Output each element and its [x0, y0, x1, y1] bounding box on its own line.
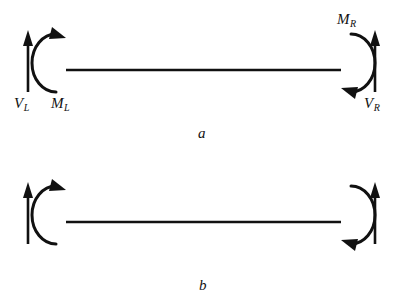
label-left-shear: VL: [14, 96, 29, 113]
panel-a: VL ML MR VR: [0, 0, 415, 152]
label-right-shear: VR: [364, 96, 380, 113]
left-rotation-arc-b: [32, 179, 66, 244]
right-displacement-arrow-b: [370, 182, 380, 244]
caption-b: b: [199, 278, 207, 293]
caption-a: a: [198, 126, 206, 141]
figure-root: VL ML MR VR: [0, 0, 415, 304]
right-rotation-arc-b: [341, 186, 375, 251]
panel-b-graphics: [0, 152, 415, 304]
right-shear-arrow-a: [370, 30, 380, 92]
label-right-moment: MR: [337, 12, 356, 29]
right-moment-arc-a: [341, 34, 375, 99]
label-left-moment: ML: [51, 96, 70, 113]
left-moment-arc-a: [32, 27, 66, 92]
panel-b: δL ΦL ΦR δR: [0, 152, 415, 304]
